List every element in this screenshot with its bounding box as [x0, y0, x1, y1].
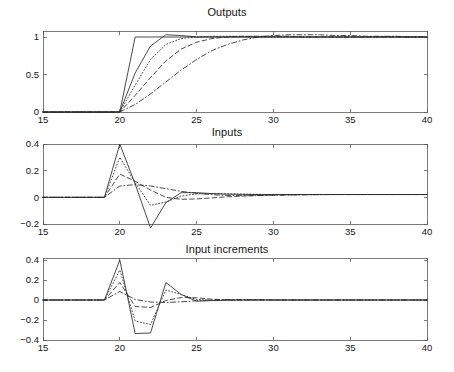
panel-outputs: Outputs 15202530354000.51	[0, 0, 454, 130]
y-tick-label: 1	[34, 31, 39, 42]
curve-output-slow	[43, 36, 427, 112]
y-tick-label: 0	[34, 106, 39, 117]
y-tick-label: 0.2	[26, 165, 39, 176]
y-tick-label: 0	[34, 192, 39, 203]
curve-input-slow	[43, 185, 427, 198]
matlab-figure: Outputs 15202530354000.51 Inputs 1520253…	[0, 0, 454, 372]
y-tick-label: 0.4	[26, 254, 39, 265]
x-tick-label: 35	[345, 342, 356, 353]
curve-output-medium	[43, 36, 427, 112]
curve-increment-fast	[43, 270, 427, 325]
panel-input-increments: Input increments 152025303540−0.4−0.200.…	[0, 240, 454, 372]
x-tick-label: 15	[38, 226, 49, 237]
panel-title-input-increments: Input increments	[0, 243, 454, 255]
y-tick-label: 0.5	[26, 69, 39, 80]
y-tick-label: 0	[34, 294, 39, 305]
x-tick-label: 15	[38, 342, 49, 353]
x-tick-label: 30	[268, 342, 279, 353]
curve-input-fast	[43, 157, 427, 205]
y-tick-label: 0.2	[26, 274, 39, 285]
x-tick-label: 20	[115, 226, 126, 237]
y-tick-label: −0.2	[20, 218, 39, 229]
curve-increment-medium	[43, 283, 427, 308]
panel-title-inputs: Inputs	[0, 126, 454, 138]
plot-input-increments: 152025303540−0.4−0.200.20.4	[0, 240, 454, 372]
curve-increment-slow	[43, 292, 427, 303]
x-tick-label: 35	[345, 226, 356, 237]
x-tick-label: 40	[422, 226, 433, 237]
y-tick-label: 0.4	[26, 138, 39, 149]
plot-inputs: 152025303540−0.200.20.4	[0, 122, 454, 246]
plot-outputs: 15202530354000.51	[0, 0, 454, 130]
curve-output-fastest	[43, 37, 427, 112]
x-tick-label: 25	[191, 342, 202, 353]
curve-input-medium	[43, 174, 427, 199]
x-tick-label: 25	[191, 226, 202, 237]
panel-inputs: Inputs 152025303540−0.200.20.4	[0, 122, 454, 246]
y-tick-label: −0.4	[20, 334, 39, 345]
curve-increment-fastest	[43, 260, 427, 334]
panel-title-outputs: Outputs	[0, 6, 454, 18]
curve-output-slowest	[43, 35, 427, 112]
x-tick-label: 30	[268, 226, 279, 237]
x-tick-label: 20	[115, 342, 126, 353]
curve-input-fastest	[43, 144, 427, 228]
x-tick-label: 40	[422, 342, 433, 353]
curve-output-fast	[43, 35, 427, 112]
y-tick-label: −0.2	[20, 314, 39, 325]
